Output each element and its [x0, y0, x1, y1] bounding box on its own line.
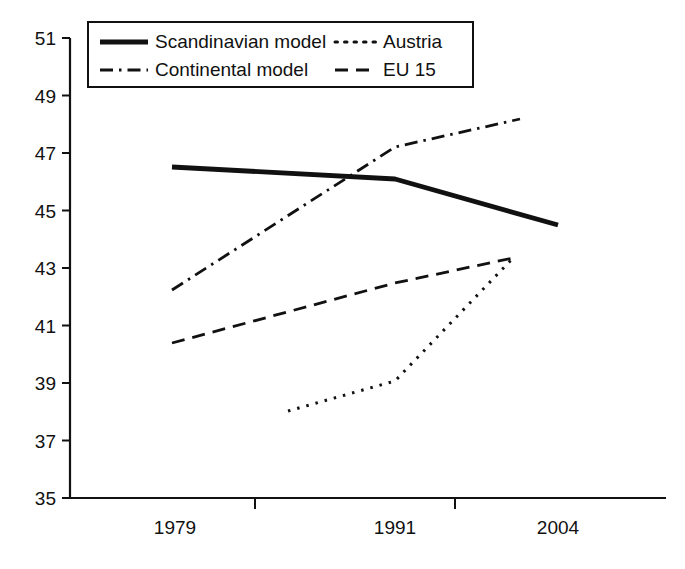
- y-tick-label: 35: [35, 488, 56, 509]
- x-tick-label: 1991: [374, 517, 416, 538]
- y-tick-label: 39: [35, 373, 56, 394]
- y-tick-label: 43: [35, 258, 56, 279]
- y-tick-label: 49: [35, 86, 56, 107]
- y-axis-ticks: [62, 38, 70, 498]
- y-tick-label: 45: [35, 201, 56, 222]
- legend-label-austria: Austria: [383, 31, 443, 52]
- chart-canvas: 51 49 47 45 43 41 39 37 35 1979 1991 200…: [0, 0, 685, 569]
- y-tick-label: 51: [35, 28, 56, 49]
- line-chart: 51 49 47 45 43 41 39 37 35 1979 1991 200…: [0, 0, 685, 569]
- x-tick-label: 2004: [537, 517, 580, 538]
- y-tick-label: 37: [35, 431, 56, 452]
- series-line-eu-15: [172, 258, 513, 343]
- legend-label-continental-model: Continental model: [155, 59, 308, 80]
- series-line-continental-model: [172, 119, 520, 290]
- x-axis-ticks: [255, 498, 455, 509]
- legend-label-scandinavian-model: Scandinavian model: [155, 31, 326, 52]
- series-line-scandinavian-model: [172, 167, 558, 225]
- x-axis-tick-labels: 1979 1991 2004: [154, 517, 580, 538]
- x-tick-label: 1979: [154, 517, 196, 538]
- y-axis-tick-labels: 51 49 47 45 43 41 39 37 35: [35, 28, 56, 509]
- y-tick-label: 47: [35, 143, 56, 164]
- y-tick-label: 41: [35, 316, 56, 337]
- legend-label-eu-15: EU 15: [383, 59, 436, 80]
